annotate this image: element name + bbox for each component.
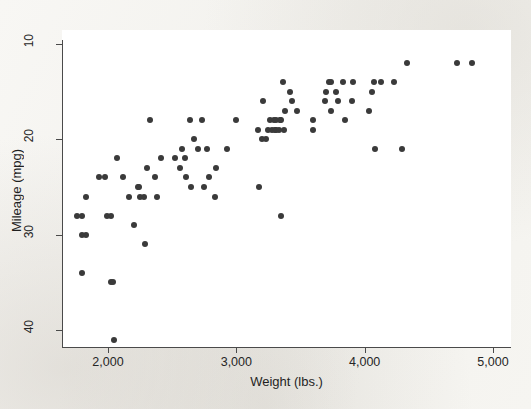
x-tick-2000 <box>108 347 109 353</box>
x-axis-title: Weight (lbs.) <box>62 374 511 389</box>
x-tick-label-2000: 2,000 <box>76 355 140 369</box>
data-point <box>136 184 142 190</box>
data-point <box>79 213 85 219</box>
x-axis-line <box>62 347 511 348</box>
y-tick-label-text: 40 <box>22 320 44 333</box>
x-tick-label-3000: 3,000 <box>204 355 268 369</box>
x-tick-label-4000: 4,000 <box>333 355 397 369</box>
data-point <box>340 79 346 85</box>
data-point <box>144 165 150 171</box>
y-axis-title: Mileage (mpg) <box>6 100 26 280</box>
y-axis-line <box>62 40 63 348</box>
data-point <box>111 337 117 343</box>
data-point <box>195 146 201 152</box>
data-point <box>282 108 288 114</box>
x-tick-4000 <box>365 347 366 353</box>
data-point <box>371 79 377 85</box>
data-point <box>366 108 372 114</box>
data-point <box>126 194 132 200</box>
data-point <box>323 89 329 95</box>
data-point <box>372 146 378 152</box>
data-point <box>213 165 219 171</box>
x-tick-3000 <box>236 347 237 353</box>
data-point <box>131 222 137 228</box>
data-point <box>154 194 160 200</box>
data-point <box>399 146 405 152</box>
plot-area <box>62 30 511 347</box>
data-point <box>294 108 300 114</box>
data-point <box>177 165 183 171</box>
data-point <box>349 98 355 104</box>
scatter-plot-figure: 10203040 2,0003,0004,0005,000 Mileage (m… <box>0 0 531 409</box>
data-point <box>108 213 114 219</box>
x-tick-5000 <box>493 347 494 353</box>
data-point <box>287 89 293 95</box>
data-point <box>278 213 284 219</box>
data-point <box>199 117 205 123</box>
y-tick-30 <box>56 235 62 236</box>
data-point <box>83 232 89 238</box>
data-point <box>141 194 147 200</box>
data-point <box>335 98 341 104</box>
data-point <box>212 194 218 200</box>
y-tick-40 <box>56 330 62 331</box>
data-point <box>255 127 261 133</box>
y-tick-label-40: 40 <box>22 320 44 340</box>
y-tick-20 <box>56 139 62 140</box>
data-point <box>289 98 295 104</box>
y-tick-label-10: 10 <box>22 34 44 54</box>
data-point <box>280 79 286 85</box>
data-point <box>281 127 287 133</box>
y-tick-label-text: 10 <box>22 34 44 47</box>
x-tick-label-5000: 5,000 <box>461 355 525 369</box>
data-point <box>204 146 210 152</box>
y-tick-10 <box>56 44 62 45</box>
data-point <box>83 194 89 200</box>
